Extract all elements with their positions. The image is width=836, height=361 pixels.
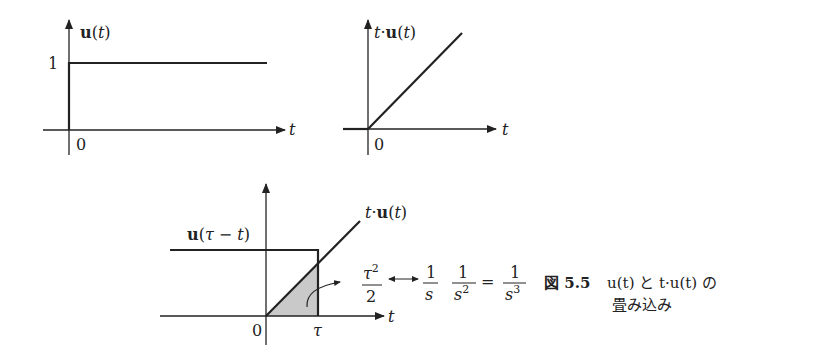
svg-text:2: 2 — [366, 287, 376, 306]
step-curve — [69, 63, 267, 130]
origin-label: 0 — [76, 135, 86, 154]
convolution-plot: u(τ − t) t·u(t) 0 τ t τ2 2 1 s 1 s2 = 1 … — [160, 184, 526, 345]
caption-line-2: 畳み込み — [544, 294, 717, 316]
origin-label: 0 — [374, 135, 384, 154]
tick-one: 1 — [48, 54, 58, 73]
tau-label: τ — [313, 321, 323, 340]
svg-text:1: 1 — [458, 263, 468, 282]
x-label: t — [289, 120, 296, 139]
fraction-1-over-s2: 1 s2 — [452, 263, 476, 304]
svg-text:s3: s3 — [505, 283, 520, 304]
svg-text:s2: s2 — [454, 283, 469, 304]
fraction-1-over-s3: 1 s3 — [503, 263, 526, 304]
ramp-curve — [368, 33, 462, 129]
svg-text:1: 1 — [426, 263, 436, 282]
fraction-1-over-s: 1 s — [423, 263, 438, 304]
equals-sign: = — [481, 272, 494, 291]
reversed-step-label: u(τ − t) — [187, 225, 250, 244]
ramp-function-plot: t·u(t) 0 t — [343, 20, 509, 155]
area-fraction: τ2 2 — [362, 262, 382, 306]
x-label: t — [388, 307, 395, 326]
ramp-label: t·u(t) — [365, 203, 407, 222]
y-label: u(t) — [80, 23, 111, 42]
svg-text:τ2: τ2 — [363, 262, 379, 283]
figure-number: 図 5.5 — [544, 274, 590, 292]
svg-text:1: 1 — [510, 263, 520, 282]
caption-line-1: u(t) と t·u(t) の — [607, 274, 717, 292]
x-label: t — [502, 120, 509, 139]
svg-text:s: s — [425, 285, 433, 304]
step-function-plot: u(t) 1 0 t — [43, 20, 296, 155]
origin-label: 0 — [252, 321, 262, 340]
y-label: t·u(t) — [374, 23, 416, 42]
figure-caption: 図 5.5 u(t) と t·u(t) の 畳み込み — [544, 272, 717, 316]
